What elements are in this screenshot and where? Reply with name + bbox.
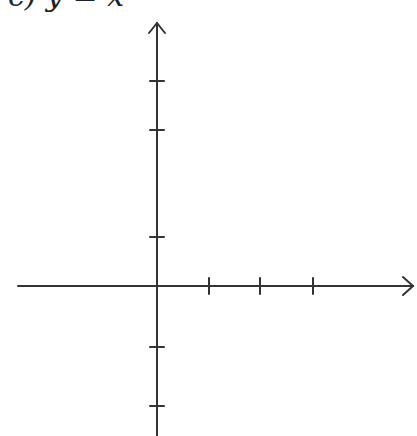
coordinate-axes — [0, 0, 417, 436]
